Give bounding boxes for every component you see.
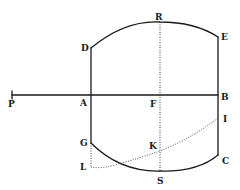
- label-C: C: [222, 156, 229, 166]
- label-I: I: [223, 114, 227, 124]
- label-A: A: [79, 98, 88, 108]
- label-D: D: [81, 43, 89, 53]
- geometric-diagram: P A F B D R E G L K S I C: [0, 0, 240, 190]
- arc-DRE: [91, 22, 218, 48]
- label-S: S: [157, 176, 164, 186]
- label-P: P: [8, 99, 15, 109]
- label-K: K: [149, 141, 158, 151]
- label-R: R: [155, 12, 163, 22]
- label-L: L: [80, 162, 87, 172]
- label-E: E: [221, 32, 228, 42]
- label-G: G: [80, 138, 88, 148]
- label-F: F: [150, 99, 157, 109]
- label-B: B: [221, 92, 229, 102]
